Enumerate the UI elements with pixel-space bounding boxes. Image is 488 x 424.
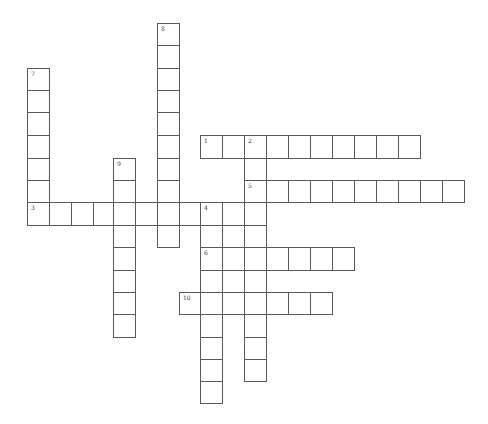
crossword-cell[interactable] <box>222 247 245 271</box>
crossword-cell[interactable] <box>27 135 50 159</box>
crossword-cell[interactable] <box>222 270 245 293</box>
crossword-cell[interactable]: 5 <box>244 180 267 203</box>
crossword-cell[interactable]: 9 <box>113 158 136 181</box>
crossword-cell[interactable] <box>376 135 399 159</box>
crossword-cell[interactable]: 7 <box>27 68 50 91</box>
crossword-cell[interactable] <box>200 337 223 360</box>
crossword-cell[interactable] <box>157 68 180 91</box>
crossword-cell[interactable] <box>71 202 94 226</box>
crossword-cell[interactable] <box>288 292 311 315</box>
crossword-cell[interactable] <box>244 314 267 338</box>
crossword-cell[interactable] <box>442 180 465 203</box>
clue-number: 6 <box>204 250 208 256</box>
clue-number: 10 <box>183 295 191 301</box>
crossword-cell[interactable] <box>244 337 267 360</box>
crossword-cell[interactable] <box>354 135 377 159</box>
crossword-cell[interactable]: 3 <box>27 202 50 226</box>
crossword-cell[interactable] <box>244 292 267 315</box>
crossword-cell[interactable] <box>157 45 180 69</box>
crossword-cell[interactable] <box>200 314 223 338</box>
crossword-cell[interactable] <box>113 292 136 315</box>
crossword-cell[interactable] <box>179 202 201 226</box>
crossword-cell[interactable] <box>200 270 223 293</box>
crossword-cell[interactable] <box>310 292 333 315</box>
crossword-cell[interactable] <box>288 135 311 159</box>
crossword-cell[interactable] <box>27 90 50 113</box>
crossword-cell[interactable] <box>288 180 311 203</box>
clue-number: 1 <box>204 138 208 144</box>
crossword-cell[interactable] <box>398 135 421 159</box>
crossword-cell[interactable] <box>27 112 50 136</box>
crossword-cell[interactable] <box>266 180 289 203</box>
crossword-cell[interactable]: 1 <box>200 135 223 159</box>
crossword-cell[interactable] <box>157 202 180 226</box>
crossword-cell[interactable]: 4 <box>200 202 223 226</box>
crossword-cell[interactable] <box>420 180 443 203</box>
crossword-cell[interactable] <box>200 225 223 248</box>
crossword-cell[interactable] <box>310 135 333 159</box>
crossword-cell[interactable] <box>222 202 245 226</box>
crossword-cell[interactable] <box>332 135 355 159</box>
crossword-grid: 12534678910 <box>0 0 488 424</box>
crossword-cell[interactable] <box>222 292 245 315</box>
crossword-cell[interactable] <box>222 225 245 248</box>
crossword-cell[interactable] <box>113 225 136 248</box>
crossword-cell[interactable] <box>244 225 267 248</box>
clue-number: 9 <box>117 161 121 167</box>
crossword-cell[interactable] <box>157 225 180 248</box>
crossword-cell[interactable] <box>354 180 377 203</box>
crossword-cell[interactable]: 6 <box>200 247 223 271</box>
crossword-cell[interactable] <box>157 135 180 159</box>
crossword-cell[interactable] <box>398 180 421 203</box>
crossword-cell[interactable] <box>113 180 136 203</box>
crossword-cell[interactable]: 10 <box>179 292 201 315</box>
crossword-cell[interactable] <box>93 202 114 226</box>
clue-number: 2 <box>248 138 252 144</box>
crossword-cell[interactable] <box>49 202 72 226</box>
crossword-cell[interactable] <box>157 90 180 113</box>
clue-number: 7 <box>31 71 35 77</box>
crossword-cell[interactable] <box>113 202 136 226</box>
crossword-cell[interactable] <box>113 270 136 293</box>
crossword-cell[interactable] <box>200 359 223 382</box>
crossword-cell[interactable] <box>27 180 50 203</box>
clue-number: 5 <box>248 183 252 189</box>
crossword-cell[interactable] <box>244 202 267 226</box>
crossword-cell[interactable] <box>332 247 355 271</box>
clue-number: 8 <box>161 26 165 32</box>
crossword-cell[interactable] <box>310 180 333 203</box>
crossword-cell[interactable] <box>113 247 136 271</box>
crossword-cell[interactable] <box>222 135 245 159</box>
crossword-cell[interactable] <box>244 247 267 271</box>
crossword-cell[interactable] <box>200 292 223 315</box>
clue-number: 3 <box>31 205 35 211</box>
crossword-cell[interactable] <box>27 158 50 181</box>
crossword-cell[interactable] <box>332 180 355 203</box>
crossword-cell[interactable] <box>310 247 333 271</box>
crossword-cell[interactable] <box>157 112 180 136</box>
crossword-cell[interactable] <box>376 180 399 203</box>
crossword-cell[interactable] <box>266 292 289 315</box>
crossword-cell[interactable] <box>266 135 289 159</box>
crossword-cell[interactable] <box>244 158 267 181</box>
crossword-cell[interactable] <box>135 202 158 226</box>
crossword-cell[interactable] <box>157 158 180 181</box>
crossword-cell[interactable] <box>244 359 267 382</box>
crossword-cell[interactable] <box>288 247 311 271</box>
crossword-cell[interactable]: 8 <box>157 23 180 46</box>
crossword-cell[interactable] <box>244 270 267 293</box>
crossword-cell[interactable] <box>113 314 136 338</box>
crossword-cell[interactable] <box>266 247 289 271</box>
crossword-cell[interactable] <box>157 180 180 203</box>
crossword-cell[interactable]: 2 <box>244 135 267 159</box>
crossword-cell[interactable] <box>200 381 223 404</box>
clue-number: 4 <box>204 205 208 211</box>
